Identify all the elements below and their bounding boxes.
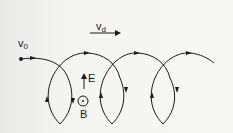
magnetic-field-dot: [82, 100, 84, 102]
magnetic-field-label: B: [80, 109, 87, 120]
initial-velocity-label: v0: [18, 38, 28, 49]
particle-start-dot: [19, 57, 23, 61]
electric-field-label: E: [88, 73, 95, 84]
initial-velocity-arrowhead: [30, 56, 36, 60]
particle-trajectory: [21, 53, 214, 124]
drift-velocity-label: vd: [96, 21, 106, 32]
trajectory-drawing: [0, 0, 233, 133]
crossed-field-drift-diagram: v0 vd E B: [0, 0, 233, 133]
